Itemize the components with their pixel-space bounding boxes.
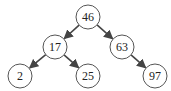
edge-arrow xyxy=(131,55,145,67)
node-label: 2 xyxy=(17,69,23,83)
edge-arrow xyxy=(97,25,112,38)
node-label: 46 xyxy=(82,10,94,24)
node-label: 17 xyxy=(49,40,61,54)
tree-node: 63 xyxy=(110,35,134,59)
edge-arrow xyxy=(64,55,78,67)
tree-node: 25 xyxy=(76,64,100,88)
binary-tree-diagram: 46176322597 xyxy=(0,0,171,91)
tree-nodes: 46176322597 xyxy=(8,5,167,88)
tree-node: 17 xyxy=(43,35,67,59)
edge-arrow xyxy=(30,55,46,68)
tree-node: 46 xyxy=(76,5,100,29)
tree-node: 97 xyxy=(143,64,167,88)
node-label: 97 xyxy=(149,69,161,83)
node-label: 63 xyxy=(116,40,128,54)
edge-arrow xyxy=(65,25,80,38)
tree-node: 2 xyxy=(8,64,32,88)
node-label: 25 xyxy=(82,69,94,83)
